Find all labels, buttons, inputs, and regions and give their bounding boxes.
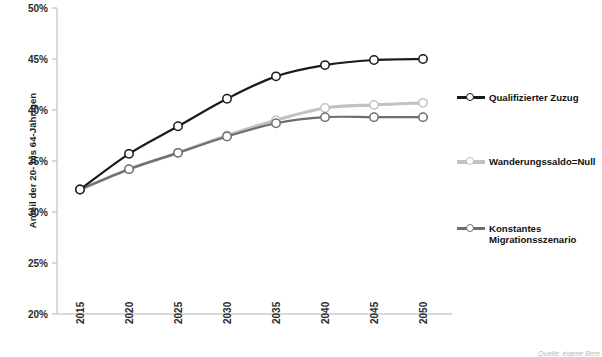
data-point-marker — [272, 119, 280, 127]
series-layer — [76, 55, 427, 194]
data-point-marker — [370, 101, 378, 109]
x-tick-label: 2035 — [271, 302, 282, 324]
legend-item-qualifizierter-zuzug[interactable]: Qualifizierter Zuzug — [457, 91, 579, 103]
data-point-marker — [174, 149, 182, 157]
legend-marker-icon — [457, 92, 485, 102]
legend-label: Wanderungssaldo=Null — [489, 156, 596, 168]
data-point-marker — [321, 104, 329, 112]
legend-label: Qualifizierter Zuzug — [489, 92, 579, 104]
data-point-marker — [174, 122, 182, 130]
data-point-marker — [419, 55, 427, 63]
data-point-marker — [76, 185, 84, 193]
data-point-marker — [370, 56, 378, 64]
legend-marker-icon — [457, 156, 485, 166]
legend-item-wanderungssaldo-null[interactable]: Wanderungssaldo=Null — [457, 155, 596, 167]
x-tick-label: 2040 — [320, 302, 331, 324]
x-tick-label: 2020 — [124, 302, 135, 324]
x-tick-label: 2050 — [418, 302, 429, 324]
y-tick-marks — [52, 8, 57, 314]
legend-marker-icon — [457, 223, 485, 233]
legend-label: Konstantes — [489, 223, 541, 235]
data-point-marker — [125, 150, 133, 158]
x-tick-label: 2025 — [173, 302, 184, 324]
plot-area — [0, 0, 602, 357]
data-point-marker — [419, 99, 427, 107]
legend-label-line2: Migrationsszenario — [489, 234, 576, 246]
x-tick-label: 2045 — [369, 302, 380, 324]
legend-item-konstantes-migrationsszenario[interactable]: Konstantes Migrationsszenario — [457, 222, 576, 246]
data-point-marker — [223, 132, 231, 140]
data-point-marker — [370, 113, 378, 121]
source-note: Quelle: eigene Bere — [538, 350, 600, 357]
x-tick-label: 2030 — [222, 302, 233, 324]
data-point-marker — [321, 61, 329, 69]
data-point-marker — [223, 95, 231, 103]
data-point-marker — [125, 165, 133, 173]
data-point-marker — [321, 113, 329, 121]
x-tick-label: 2015 — [75, 302, 86, 324]
data-point-marker — [419, 113, 427, 121]
data-point-marker — [272, 72, 280, 80]
chart-container: Anteil der 20- bis 64-Jährigen 50% 45% 4… — [0, 0, 602, 357]
